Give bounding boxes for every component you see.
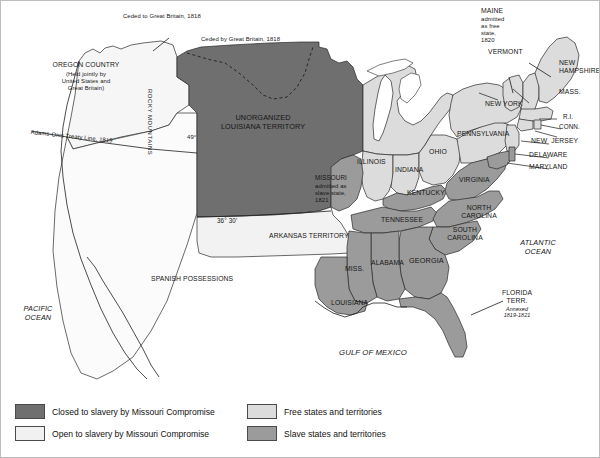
state-label-louisiana: LOUISIANA [331, 299, 368, 307]
legend-item-open-to-slavery: Open to slavery by Missouri Compromise [15, 426, 209, 441]
region-label-florida-territory: FLORIDA TERR. [493, 289, 541, 305]
state-label-tennessee: TENNESSEE [381, 216, 423, 224]
annotation-ceded-to-great-britain: Ceded to Great Britain, 1818 [123, 13, 201, 20]
water-label-atlantic-ocean: ATLANTIC OCEAN [509, 239, 567, 256]
annotation-parallel-49: 49° [187, 134, 196, 141]
map-legend: Closed to slavery by Missouri Compromise… [1, 396, 600, 458]
state-new-hampshire [521, 73, 539, 113]
legend-label-free-states: Free states and territories [284, 407, 382, 417]
state-label-missouri: MISSOURI [315, 174, 347, 181]
state-label-ohio: OHIO [429, 148, 447, 156]
state-label-alabama: ALABAMA [371, 259, 404, 267]
region-note-florida-territory: Annexed 1819-1821 [493, 306, 541, 319]
legend-label-closed-to-slavery: Closed to slavery by Missouri Compromise [52, 407, 215, 417]
legend-swatch-slave-states [247, 426, 277, 441]
state-label-delaware: DELAWARE [529, 151, 567, 159]
legend-swatch-free-states [247, 404, 277, 419]
state-label-illinois: ILLINOIS [357, 158, 386, 166]
state-label-rhode-island: R.I. [563, 113, 573, 120]
legend-label-open-to-slavery: Open to slavery by Missouri Compromise [52, 429, 209, 439]
region-label-rocky-mountains: ROCKY MOUNTAINS [146, 89, 153, 155]
region-label-arkansas-territory: ARKANSAS TERRITORY [269, 232, 349, 240]
state-label-virginia: VIRGINIA [459, 176, 490, 184]
legend-item-free-states: Free states and territories [247, 404, 382, 419]
state-label-indiana: INDIANA [395, 166, 423, 174]
state-label-new-jersey: NEW JERSEY [531, 137, 578, 145]
state-label-pennsylvania: PENNSYLVANIA [457, 130, 509, 138]
state-label-maine: MAINE [481, 7, 503, 15]
state-rhode-island [534, 120, 541, 129]
state-delaware [509, 147, 515, 161]
legend-item-slave-states: Slave states and territories [247, 426, 386, 441]
state-label-vermont: VERMONT [488, 48, 523, 56]
legend-label-slave-states: Slave states and territories [284, 429, 386, 439]
legend-swatch-open-to-slavery [15, 426, 45, 441]
region-spanish-possessions [53, 113, 197, 379]
state-connecticut [517, 119, 533, 131]
water-label-pacific-ocean: PACIFIC OCEAN [9, 305, 67, 322]
state-label-maryland: MARYLAND [529, 163, 567, 171]
state-label-massachusetts: MASS. [559, 88, 581, 96]
region-label-oregon-country: OREGON COUNTRY [31, 61, 141, 69]
region-florida-territory [399, 293, 467, 357]
state-label-georgia: GEORGIA [409, 257, 444, 266]
state-label-mississippi: MISS. [345, 265, 364, 273]
state-label-new-york: NEW YORK [485, 100, 523, 108]
state-label-south-carolina: SOUTH CAROLINA [439, 226, 491, 242]
state-label-connecticut: CONN. [559, 123, 580, 130]
legend-item-closed-to-slavery: Closed to slavery by Missouri Compromise [15, 404, 215, 419]
water-label-gulf-of-mexico: GULF OF MEXICO [339, 348, 407, 357]
annotation-parallel-36-30: 36° 30' [217, 217, 237, 224]
region-label-unorganized-louisiana-territory: UNORGANIZED LOUISIANA TERRITORY [201, 114, 325, 131]
state-label-kentucky: KENTUCKY [407, 189, 445, 197]
region-label-spanish-possessions: SPANISH POSSESSIONS [151, 275, 233, 283]
legend-swatch-closed-to-slavery [15, 404, 45, 419]
state-label-new-hampshire: NEW HAMPSHIRE [559, 59, 600, 75]
region-note-oregon-country: (Held jointly by United States and Great… [31, 71, 141, 92]
state-note-missouri: admitted as slave state, 1821 [315, 183, 347, 204]
map-figure: Ceded to Great Britain, 1818 Ceded by Gr… [0, 0, 600, 458]
state-note-maine: admitted as free state, 1820 [481, 16, 504, 44]
state-label-north-carolina: NORTH CAROLINA [453, 204, 505, 220]
annotation-ceded-by-great-britain: Ceded by Great Britain, 1818 [201, 36, 280, 43]
